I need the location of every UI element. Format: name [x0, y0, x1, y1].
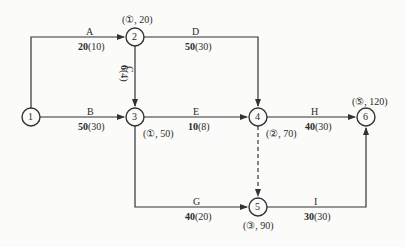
node-6-label: 6 [363, 112, 368, 122]
activity-G-name: G [193, 197, 200, 207]
node-6-annotation: (⑤, 120) [352, 97, 388, 107]
node-3-label: 3 [132, 112, 137, 122]
node-5-label: 5 [255, 202, 260, 212]
activity-I-name: I [314, 197, 317, 207]
node-4-label: 4 [255, 112, 260, 122]
node-3-annotation: (①, 50) [143, 129, 174, 139]
activity-B-name: B [87, 107, 94, 117]
node-2-label: 2 [132, 32, 137, 42]
node-2-annotation: (①, 20) [122, 15, 153, 25]
activity-B-values: 50(30) [78, 122, 105, 132]
node-1-label: 1 [28, 112, 33, 122]
activity-G-values: 40(20) [185, 212, 212, 222]
activity-D-name: D [192, 27, 199, 37]
activity-D-values: 50(30) [185, 42, 212, 52]
activity-I-values: 30(30) [304, 212, 331, 222]
node-4-annotation: (②, 70) [266, 129, 297, 139]
activity-H-values: 40(30) [305, 122, 332, 132]
activity-E-name: E [193, 107, 199, 117]
activity-A-name: A [86, 27, 93, 37]
activity-H-name: H [311, 107, 318, 117]
activity-A-values: 20(10) [78, 42, 105, 52]
activity-E-values: 10(8) [188, 122, 210, 132]
activity-C-values: 6(4) [119, 65, 129, 82]
node-5-annotation: (③, 90) [243, 221, 274, 231]
